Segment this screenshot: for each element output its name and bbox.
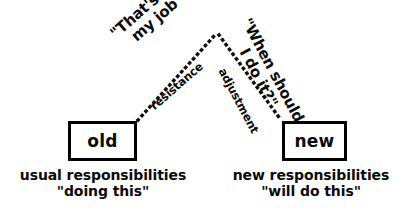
caption-new-line1: new responsibilities	[233, 167, 389, 183]
caption-old-line2: "doing this"	[2, 184, 204, 200]
node-old-label: old	[87, 133, 117, 150]
node-new-label: new	[295, 133, 335, 150]
caption-new: new responsibilities "will do this"	[211, 168, 411, 199]
caption-old: usual responsibilities "doing this"	[2, 168, 204, 199]
node-old: old	[68, 121, 137, 161]
node-new: new	[282, 121, 347, 161]
diagram-canvas: "That's not my job" resistance "When sho…	[0, 0, 412, 220]
caption-new-line2: "will do this"	[211, 184, 411, 200]
caption-old-line1: usual responsibilities	[20, 167, 186, 183]
